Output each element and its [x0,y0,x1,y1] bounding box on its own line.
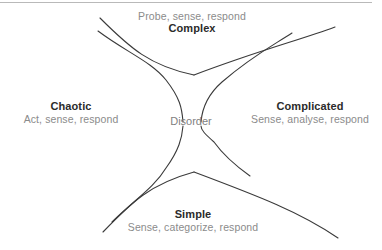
domain-label-complicated: Complicated Sense, analyse, respond [240,100,380,125]
domain-action-simple: Sense, categorize, respond [118,221,268,233]
domain-name-complicated: Complicated [240,100,380,113]
center-label-disorder: Disorder [152,115,230,127]
domain-label-simple: Simple Sense, categorize, respond [118,208,268,233]
cynefin-diagram: Probe, sense, respond Complex Chaotic Ac… [0,0,382,250]
domain-action-chaotic: Act, sense, respond [3,113,139,125]
domain-action-complicated: Sense, analyse, respond [240,113,380,125]
domain-name-complex: Complex [118,22,266,35]
domain-name-simple: Simple [118,208,268,221]
domain-label-complex: Probe, sense, respond Complex [118,10,266,35]
curve-bottom-right-short [201,126,250,176]
domain-action-complex: Probe, sense, respond [118,10,266,22]
domain-label-chaotic: Chaotic Act, sense, respond [3,100,139,125]
domain-name-chaotic: Chaotic [3,100,139,113]
